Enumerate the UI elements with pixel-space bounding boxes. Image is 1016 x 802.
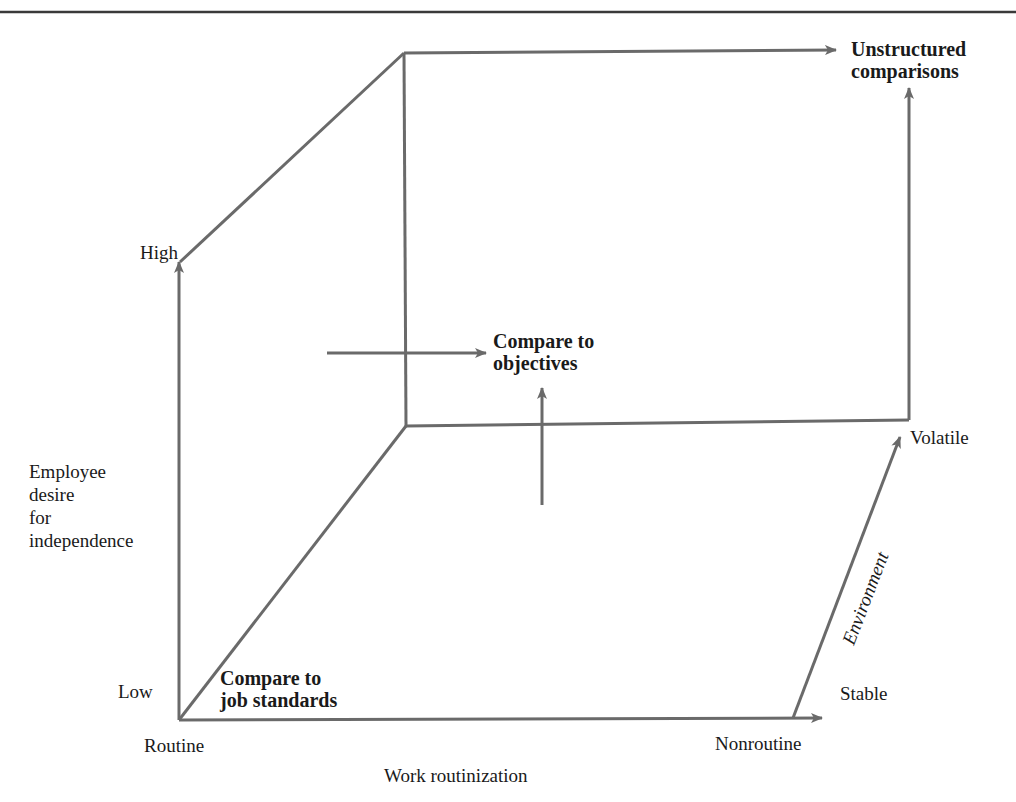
y-axis-title: Employee desire for independence <box>29 460 133 552</box>
z-axis-volatile-label: Volatile <box>910 427 969 449</box>
y-axis-low-label: Low <box>118 681 153 703</box>
three-axis-diagram: Unstructured comparisons Compare to obje… <box>0 0 1016 802</box>
top-diagonal-edge <box>180 53 404 262</box>
compare-to-job-standards-label: Compare to job standards <box>220 667 337 711</box>
x-axis-title: Work routinization <box>384 765 528 787</box>
y-axis-high-label: High <box>140 242 178 264</box>
compare-to-objectives-label: Compare to objectives <box>493 330 594 374</box>
back-bottom-edge <box>406 420 909 426</box>
x-axis-routine-label: Routine <box>144 735 204 757</box>
back-vertical-edge <box>404 53 406 426</box>
x-axis-nonroutine-label: Nonroutine <box>715 733 802 755</box>
top-edge-arrow <box>404 50 836 53</box>
x-axis-arrow <box>179 718 822 720</box>
z-axis-stable-label: Stable <box>840 683 888 705</box>
unstructured-comparisons-label: Unstructured comparisons <box>851 38 966 82</box>
